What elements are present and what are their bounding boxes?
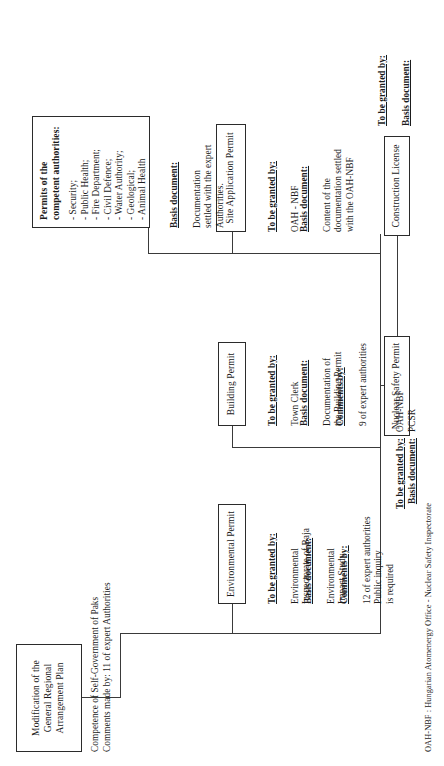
node-construction-license[interactable]: Construction License <box>384 136 410 236</box>
authority-item: Water Authority; <box>114 124 126 220</box>
environmental-basis-header: Basis document: <box>303 538 313 604</box>
competence-note-line1: Competence of Self-Government of Paks <box>90 542 101 752</box>
node-building-permit-label: Building Permit <box>226 353 238 415</box>
connector-authorities-vertical <box>148 253 232 254</box>
authorities-basis-value: Documentation settled with the expert Au… <box>192 144 225 228</box>
connector-title-horizontal <box>120 634 121 698</box>
building-comments-value: 9 of expert authorities <box>358 343 368 426</box>
node-environmental-permit[interactable]: Environmental Permit <box>218 504 246 604</box>
site-basis: Basis document: Content of the documenta… <box>288 92 356 232</box>
page-root: Modification of the General Regional Arr… <box>0 0 444 766</box>
construction-basis-header: Basis document: <box>401 60 411 126</box>
environmental-comments-header: Comments by: <box>339 545 349 604</box>
main-spine-vertical <box>120 633 380 634</box>
nuclear-basis-value-wrap: PCSR <box>396 312 419 432</box>
nuclear-basis-value: PCSR <box>407 409 417 432</box>
diagram-canvas: Modification of the General Regional Arr… <box>0 0 444 766</box>
authority-item: Geological; <box>126 124 138 220</box>
nuclear-basis-header: Basis document: <box>407 438 417 504</box>
environmental-granted-by-header: To be granted by: <box>267 533 277 604</box>
footnote-abbreviation: OAH-NBF : Hungarian Atomenergy Office - … <box>424 332 434 752</box>
construction-granted-by-header: To be granted by: <box>377 55 387 126</box>
authority-item: Public Health; <box>80 124 92 220</box>
connector-building-vertical <box>232 447 380 448</box>
construction-granted-by: To be granted by: <box>366 0 389 126</box>
title-box-text: Modification of the General Regional Arr… <box>31 652 67 744</box>
connector-construction-horizontal <box>397 236 398 336</box>
authorities-basis: Basis document: Documentation settled wi… <box>158 88 226 228</box>
node-site-application-permit-label: Site Application Permit <box>225 132 237 224</box>
competent-authorities-title: Permits of the competent authorities: <box>39 124 62 220</box>
authority-item: Animal Health <box>137 124 149 220</box>
competence-note-line2: Comments made by: 11 of expert Authoriti… <box>102 522 113 752</box>
building-basis-header: Basis document: <box>299 360 309 426</box>
node-environmental-permit-label: Environmental Permit <box>226 511 238 597</box>
building-granted-by-header: To be granted by: <box>267 355 277 426</box>
connector-site-vertical <box>232 253 380 254</box>
connector-site-horizontal <box>232 232 233 254</box>
nuclear-basis: Basis document: <box>396 438 419 578</box>
connector-building-horizontal <box>232 426 233 448</box>
connector-authorities-horizontal <box>148 228 149 254</box>
construction-basis: Basis document: <box>390 0 413 126</box>
authorities-basis-header: Basis document: <box>169 162 179 228</box>
site-granted-by-header: To be granted by: <box>267 161 277 232</box>
node-competent-authorities[interactable]: Permits of the competent authorities: Se… <box>32 116 150 228</box>
node-general-regional-arrangement-plan[interactable]: Modification of the General Regional Arr… <box>16 644 82 752</box>
competent-authorities-list: Security; Public Health; Fire Department… <box>68 124 149 220</box>
site-basis-header: Basis document: <box>299 166 309 232</box>
connector-title-vertical <box>82 697 120 698</box>
site-basis-value: Content of the documentation settled wit… <box>322 149 355 232</box>
authority-item: Civil Defence; <box>103 124 115 220</box>
authority-item: Fire Department; <box>91 124 103 220</box>
building-comments-header: Comments by: <box>335 367 345 426</box>
authority-item: Security; <box>68 124 80 220</box>
node-building-permit[interactable]: Building Permit <box>218 342 246 426</box>
spine-branch-environmental <box>232 604 233 634</box>
node-construction-license-label: Construction License <box>391 145 403 228</box>
building-comments: Comments by: 9 of expert authorities <box>324 296 369 426</box>
